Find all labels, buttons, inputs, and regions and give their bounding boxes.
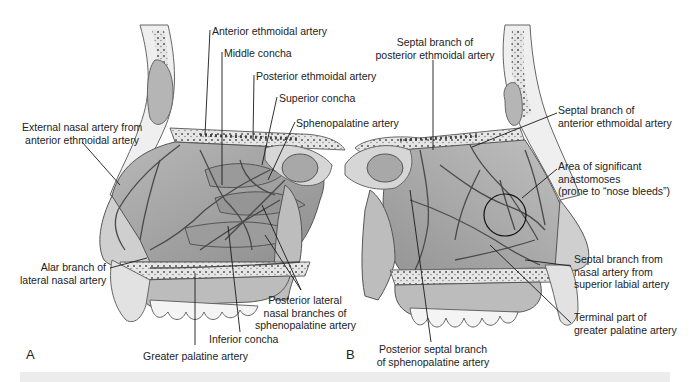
label-line: anastomoses xyxy=(558,173,670,186)
label-septal-branch-posterior-ethmoidal: Septal branch of posterior ethmoidal art… xyxy=(372,36,498,61)
label-line: superior labial artery xyxy=(574,278,669,291)
label-line: Alar branch of xyxy=(20,261,106,274)
label-external-nasal-artery: External nasal artery from anterior ethm… xyxy=(22,121,142,146)
label-line: posterior ethmoidal artery xyxy=(372,49,498,62)
label-line: nasal branches of xyxy=(255,307,355,320)
label-line: anterior ethmoidal artery xyxy=(558,117,672,130)
label-line: Septal branch from xyxy=(574,253,669,266)
label-line: Area of significant xyxy=(558,160,670,173)
panel-b-illustration xyxy=(345,25,589,327)
label-greater-palatine-artery: Greater palatine artery xyxy=(143,350,248,363)
label-line: anterior ethmoidal artery xyxy=(22,134,142,147)
label-line: Posterior lateral xyxy=(255,294,355,307)
label-septal-branch-superior-labial: Septal branch from nasal artery from sup… xyxy=(574,253,669,291)
label-line: sphenopalatine artery xyxy=(255,319,355,332)
label-line: Posterior septal branch xyxy=(375,343,491,356)
label-line: greater palatine artery xyxy=(574,324,677,337)
label-line: lateral nasal artery xyxy=(20,274,106,287)
label-superior-concha: Superior concha xyxy=(279,92,355,105)
label-line: of sphenopalatine artery xyxy=(375,356,491,369)
nasal-arteries-figure: Anterior ethmoidal artery Middle concha … xyxy=(0,0,694,382)
label-line: (prone to “nose bleeds”) xyxy=(558,185,670,198)
label-inferior-concha: Inferior concha xyxy=(209,333,278,346)
bottom-divider xyxy=(20,372,670,382)
label-septal-branch-anterior-ethmoidal: Septal branch of anterior ethmoidal arte… xyxy=(558,104,672,129)
label-line: Terminal part of xyxy=(574,311,677,324)
panel-letter-a: A xyxy=(26,347,35,362)
label-line: Septal branch of xyxy=(558,104,672,117)
label-anterior-ethmoidal-artery: Anterior ethmoidal artery xyxy=(212,25,327,38)
label-sphenopalatine-artery: Sphenopalatine artery xyxy=(296,117,399,130)
label-line: nasal artery from xyxy=(574,266,669,279)
label-middle-concha: Middle concha xyxy=(224,47,292,60)
label-area-of-anastomoses: Area of significant anastomoses (prone t… xyxy=(558,160,670,198)
label-line: External nasal artery from xyxy=(22,121,142,134)
label-posterior-ethmoidal-artery: Posterior ethmoidal artery xyxy=(256,70,376,83)
label-posterior-lateral-nasal-branches: Posterior lateral nasal branches of sphe… xyxy=(255,294,355,332)
label-alar-branch: Alar branch of lateral nasal artery xyxy=(20,261,106,286)
label-terminal-greater-palatine: Terminal part of greater palatine artery xyxy=(574,311,677,336)
label-posterior-septal-branch: Posterior septal branch of sphenopalatin… xyxy=(375,343,491,368)
panel-letter-b: B xyxy=(346,347,355,362)
label-line: Septal branch of xyxy=(372,36,498,49)
